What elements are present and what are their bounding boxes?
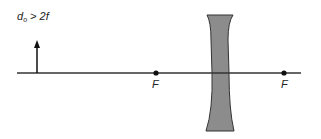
focal-point-left-dot: [153, 70, 158, 75]
focal-point-left-label: F: [152, 79, 159, 90]
object-distance-condition: do > 2f: [17, 11, 49, 23]
focal-point-right-dot: [281, 70, 286, 75]
diagram-canvas: do > 2f F F: [0, 0, 321, 139]
object-arrow-head: [34, 40, 40, 48]
focal-point-right-label: F: [281, 79, 288, 90]
